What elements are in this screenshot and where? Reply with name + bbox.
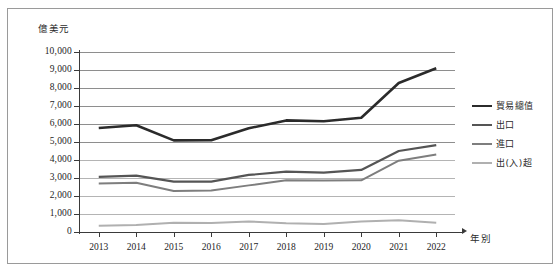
x-axis-tick	[136, 232, 137, 237]
legend-item[interactable]: 貿易總值	[472, 96, 556, 115]
y-axis-tick-label: 3,000	[16, 173, 72, 183]
legend-item[interactable]: 出(入)超	[472, 153, 556, 172]
series-line	[99, 145, 437, 182]
x-axis-tick	[174, 232, 175, 237]
y-axis-tick	[74, 88, 80, 89]
y-axis-tick	[74, 106, 80, 107]
legend-item-label: 出(入)超	[496, 156, 532, 169]
y-axis-tick	[74, 196, 80, 197]
y-axis-tick-label: 5,000	[16, 137, 72, 147]
x-axis-tick	[286, 232, 287, 237]
x-axis-arrow-icon	[462, 228, 467, 234]
x-axis-tick-label: 2022	[413, 243, 459, 253]
trade-statistics-line-chart: 億美元 年別 10,0009,0008,0007,0006,0005,0004,…	[0, 0, 560, 273]
y-axis-tick	[74, 52, 80, 53]
y-axis-tick-label: 6,000	[16, 119, 72, 129]
x-axis-tick	[399, 232, 400, 237]
series-line	[99, 68, 437, 140]
y-axis-tick	[74, 142, 80, 143]
y-axis-tick	[74, 178, 80, 179]
legend-color-swatch	[472, 105, 492, 107]
data-series-layer	[80, 52, 455, 232]
y-axis-tick-labels: 10,0009,0008,0007,0006,0005,0004,0003,00…	[14, 0, 72, 273]
legend-item[interactable]: 進口	[472, 134, 556, 153]
y-axis-tick-label: 9,000	[16, 65, 72, 75]
y-axis-tick-label: 0	[16, 227, 72, 237]
legend-item-label: 出口	[496, 118, 515, 131]
y-axis-tick	[74, 160, 80, 161]
x-axis-tick	[361, 232, 362, 237]
y-axis-tick	[74, 70, 80, 71]
y-axis-tick-label: 4,000	[16, 155, 72, 165]
legend-item-label: 進口	[496, 137, 515, 150]
legend-color-swatch	[472, 124, 492, 126]
chart-legend: 貿易總值出口進口出(入)超	[472, 96, 556, 172]
x-axis-tick	[249, 232, 250, 237]
y-axis-tick-label: 10,000	[16, 47, 72, 57]
y-axis-tick	[74, 124, 80, 125]
y-axis-tick-label: 8,000	[16, 83, 72, 93]
y-axis-tick-label: 2,000	[16, 191, 72, 201]
legend-color-swatch	[472, 143, 492, 145]
x-axis-tick	[211, 232, 212, 237]
x-axis-tick-labels: 2013201420152016201720182019202020212022	[0, 243, 560, 259]
y-axis-tick	[74, 214, 80, 215]
legend-item-label: 貿易總值	[496, 99, 534, 112]
legend-item[interactable]: 出口	[472, 115, 556, 134]
x-axis-tick	[324, 232, 325, 237]
series-line	[99, 220, 437, 225]
y-axis-tick	[74, 232, 80, 233]
x-axis-tick	[99, 232, 100, 237]
y-axis-tick-label: 1,000	[16, 209, 72, 219]
x-axis-tick	[436, 232, 437, 237]
y-axis-tick-label: 7,000	[16, 101, 72, 111]
legend-color-swatch	[472, 162, 492, 164]
